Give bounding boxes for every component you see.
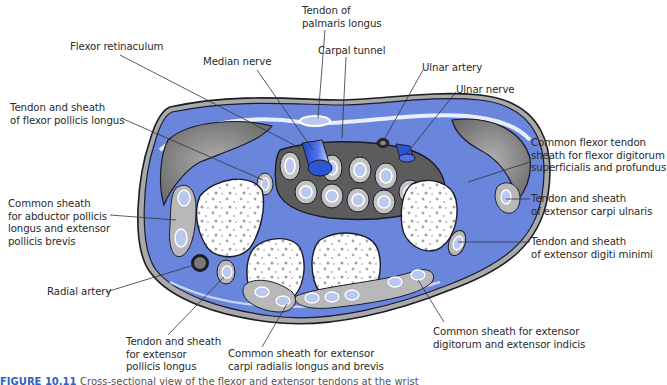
label-ulnar-nerve: Ulnar nerve [456,84,515,97]
label-common-sheath-extensor-digitorum: Common sheath for extensor digitorum and… [433,326,585,351]
label-tendon-flexor-pollicis-longus: Tendon and sheath of flexor pollicis lon… [10,102,124,127]
label-median-nerve: Median nerve [203,56,271,69]
label-flexor-retinaculum: Flexor retinaculum [70,41,163,54]
figure-caption-label: FIGURE 10.11 [0,376,77,385]
label-tendon-extensor-digiti-minimi: Tendon and sheath of extensor digiti min… [531,236,653,261]
ecrb-tendon [276,296,290,306]
ecrl-tendon [255,287,269,297]
label-carpal-tunnel: Carpal tunnel [318,45,386,58]
extensor-carpi-ulnaris-tendon [501,190,511,204]
label-radial-artery: Radial artery [47,286,111,299]
radial-artery-lumen [194,257,206,269]
label-tendon-extensor-pollicis-longus: Tendon and sheath for extensor pollicis … [126,336,221,374]
label-common-sheath-abductor-pollicis: Common sheath for abductor pollicis long… [8,198,110,248]
label-common-flexor-tendon-sheath: Common flexor tendon sheath for flexor d… [531,137,666,175]
extensor-pollicis-brevis-tendon [175,229,187,247]
ulnar-artery-lumen [380,141,386,145]
label-tendon-extensor-carpi-ulnaris: Tendon and sheath of extensor carpi ulna… [531,193,652,218]
ulnar-nerve-end [399,154,415,162]
figure-caption-text: Cross-sectional view of the flexor and e… [80,376,419,385]
palmaris-longus-tendon [300,116,330,126]
figure-caption: FIGURE 10.11 Cross-sectional view of the… [0,376,419,385]
abductor-pollicis-tendon [178,190,190,206]
extensor-pollicis-longus-tendon [222,266,232,278]
label-ulnar-artery: Ulnar artery [422,62,482,75]
label-tendon-palmaris-longus: Tendon of palmaris longus [302,5,382,30]
label-common-sheath-extensor-carpi-radialis: Common sheath for extensor carpi radiali… [228,348,384,373]
